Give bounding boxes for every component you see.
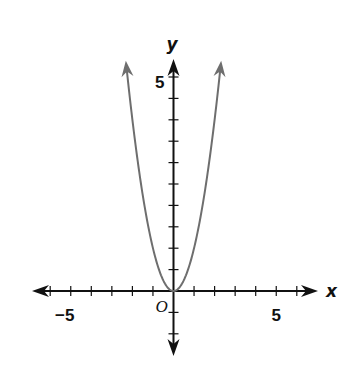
x-axis-label: x [325, 281, 338, 301]
y-axis-label: y [167, 34, 179, 54]
y-tick-label: 5 [155, 73, 164, 92]
x-tick-label: −5 [55, 306, 74, 325]
origin-label: O [156, 297, 168, 316]
x-tick-label: 5 [272, 306, 281, 325]
labels: x y O [156, 34, 339, 316]
parabola-chart: −555 x y O [0, 0, 349, 365]
